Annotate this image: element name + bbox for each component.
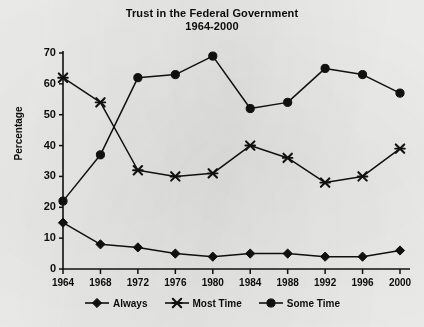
data-point [283,154,293,162]
data-point [171,71,179,79]
data-point [358,172,368,180]
data-point [358,252,367,261]
data-point [59,197,67,205]
legend-item[interactable]: Always [84,297,147,309]
data-point [395,246,404,255]
legend-marker-x-star [164,297,190,309]
legend-marker-circle [258,297,284,309]
data-point [133,243,142,252]
axis-lines [59,51,410,274]
legend-item[interactable]: Most Time [164,297,242,309]
data-point [209,52,217,60]
data-point [245,141,255,149]
plot-area [0,0,424,327]
data-point [96,240,105,249]
series-line [63,223,400,257]
data-point [321,64,329,72]
data-series-layer [58,52,405,261]
data-point [246,249,255,258]
data-point [396,89,404,97]
data-point [208,252,217,261]
legend-label: Some Time [287,298,340,309]
legend-symbol [92,298,101,307]
legend-label: Always [113,298,147,309]
series-some-time [59,52,404,205]
data-point [395,144,405,152]
legend-item[interactable]: Some Time [258,297,340,309]
series-line [63,56,400,201]
chart-figure: Trust in the Federal Government 1964-200… [0,0,424,327]
data-point [358,71,366,79]
data-point [171,172,181,180]
series-most-time [58,73,405,186]
data-point [58,218,67,227]
data-point [96,98,106,106]
legend-symbol [267,299,275,307]
chart-legend: AlwaysMost TimeSome Time [0,297,424,309]
data-point [320,178,330,186]
data-point [96,151,104,159]
data-point [284,98,292,106]
data-point [208,169,218,177]
data-point [133,166,143,174]
series-always [58,218,404,261]
series-line [63,78,400,183]
data-point [283,249,292,258]
data-point [246,104,254,112]
data-point [171,249,180,258]
legend-symbol [172,299,182,307]
data-point [134,74,142,82]
legend-label: Most Time [193,298,242,309]
data-point [321,252,330,261]
legend-marker-diamond [84,297,110,309]
